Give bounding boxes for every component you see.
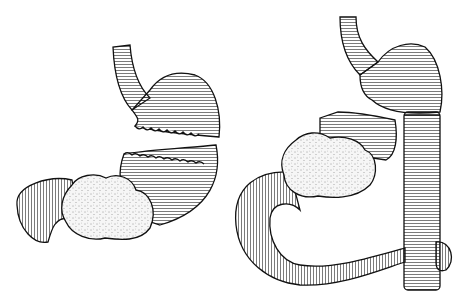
right-panel — [236, 17, 452, 290]
jejunojejunostomy — [436, 242, 451, 271]
remnant-stomach — [360, 44, 442, 113]
left-panel — [17, 45, 220, 242]
jejunal-limb — [404, 112, 440, 290]
figure — [0, 0, 464, 305]
surgical-illustration — [0, 0, 464, 305]
